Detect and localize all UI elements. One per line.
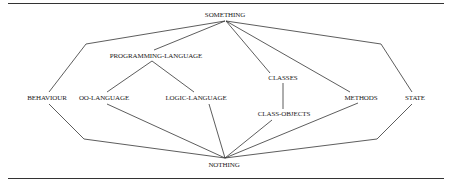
node-programming-language: PROGRAMMING-LANGUAGE <box>110 53 203 60</box>
node-class-objects: CLASS-OBJECTS <box>258 111 310 118</box>
edge-behaviour-nothing <box>49 104 225 158</box>
node-methods: METHODS <box>344 95 377 102</box>
node-something: SOMETHING <box>205 12 245 19</box>
node-classes: CLASSES <box>268 75 297 82</box>
node-behaviour: BEHAVIOUR <box>27 95 66 102</box>
node-state: STATE <box>405 95 425 102</box>
edge-something-state <box>226 21 412 92</box>
node-nothing: NOTHING <box>208 162 239 169</box>
edge-something-classes <box>226 21 270 73</box>
edge-class-objects-nothing <box>225 120 272 158</box>
edge-state-nothing <box>225 104 412 158</box>
node-oo-language: OO-LANGUAGE <box>79 95 129 102</box>
edge-something-programming-language <box>154 21 225 50</box>
lattice-diagram: SOMETHING PROGRAMMING-LANGUAGE BEHAVIOUR… <box>0 0 453 182</box>
edge-programming-language-oo-language <box>107 61 152 92</box>
edge-logic-language-nothing <box>209 104 225 158</box>
edge-programming-language-logic-language <box>152 61 194 92</box>
edges-layer <box>0 0 453 182</box>
node-logic-language: LOGIC-LANGUAGE <box>165 95 226 102</box>
